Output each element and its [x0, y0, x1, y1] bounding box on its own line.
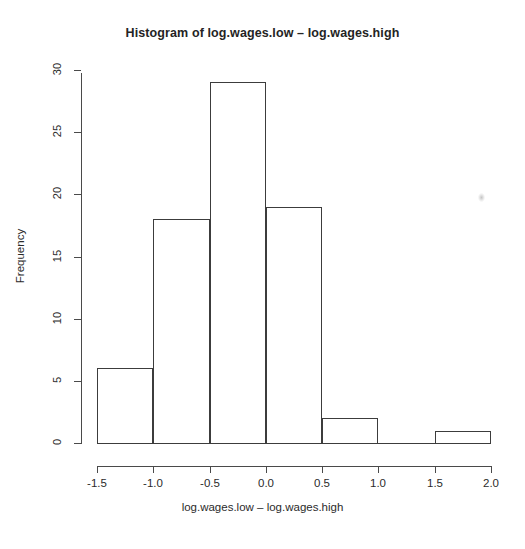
- y-axis-tick-label-wrap: 10: [46, 312, 68, 326]
- x-axis-tick-label: 1.0: [353, 477, 403, 489]
- x-axis-tick: [378, 466, 379, 473]
- y-axis-tick: [74, 70, 81, 71]
- y-axis-tick: [74, 257, 81, 258]
- y-axis-tick: [74, 132, 81, 133]
- y-axis-tick-label-wrap: 30: [46, 63, 68, 77]
- x-axis-tick: [97, 466, 98, 473]
- histogram-figure: Histogram of log.wages.low – log.wages.h…: [0, 0, 525, 549]
- y-axis-tick: [74, 443, 81, 444]
- x-axis-tick-label: -1.5: [72, 477, 122, 489]
- plot-baseline: [97, 443, 491, 444]
- x-axis-tick-label: 1.5: [410, 477, 460, 489]
- y-axis-tick-label-wrap: 0: [46, 436, 68, 450]
- x-axis-tick: [266, 466, 267, 473]
- x-axis-tick: [435, 466, 436, 473]
- y-axis-tick-label: 30: [51, 58, 63, 80]
- scan-artifact-speck: [478, 193, 485, 202]
- histogram-bar: [153, 219, 209, 443]
- y-axis-tick-label-wrap: 15: [46, 250, 68, 264]
- x-axis-tick-label: -1.0: [128, 477, 178, 489]
- x-axis-tick-label: 0.0: [241, 477, 291, 489]
- y-axis-tick-label: 25: [51, 120, 63, 142]
- y-axis-tick-label: 20: [51, 182, 63, 204]
- histogram-bar: [210, 82, 266, 443]
- y-axis-tick-label: 10: [51, 307, 63, 329]
- y-axis-line: [81, 73, 82, 444]
- histogram-bar: [266, 207, 322, 443]
- y-axis-tick-label-wrap: 25: [46, 125, 68, 139]
- x-axis-line: [97, 466, 492, 467]
- histogram-bar: [435, 431, 491, 443]
- histogram-bar: [322, 418, 378, 443]
- x-axis-title: log.wages.low – log.wages.high: [0, 501, 525, 513]
- y-axis-tick: [74, 319, 81, 320]
- y-axis-tick-label: 0: [51, 431, 63, 453]
- x-axis-tick: [491, 466, 492, 473]
- plot-area: [97, 70, 491, 443]
- x-axis-tick: [322, 466, 323, 473]
- y-axis-tick: [74, 381, 81, 382]
- x-axis-tick-label: -0.5: [185, 477, 235, 489]
- y-axis-tick-label: 15: [51, 245, 63, 267]
- y-axis-tick-label-wrap: 5: [46, 374, 68, 388]
- y-axis-tick-label-wrap: 20: [46, 187, 68, 201]
- x-axis-tick: [153, 466, 154, 473]
- y-axis-tick: [74, 194, 81, 195]
- x-axis-tick-label: 2.0: [466, 477, 516, 489]
- y-axis-title: Frequency: [14, 201, 26, 311]
- chart-title: Histogram of log.wages.low – log.wages.h…: [0, 26, 525, 40]
- histogram-bar: [97, 368, 153, 443]
- y-axis-tick-label: 5: [51, 369, 63, 391]
- x-axis-tick-label: 0.5: [297, 477, 347, 489]
- x-axis-tick: [210, 466, 211, 473]
